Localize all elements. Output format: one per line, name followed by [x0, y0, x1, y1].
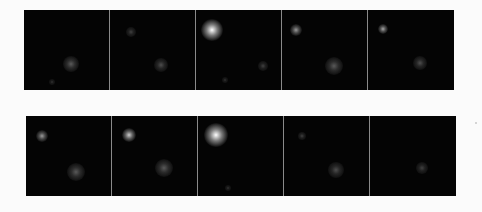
fluorescent-spot	[36, 130, 48, 142]
image-panel	[24, 10, 110, 90]
fluorescent-spot	[298, 132, 306, 140]
fluorescent-spot	[67, 163, 85, 181]
fluorescent-spot	[155, 159, 173, 177]
image-panel	[198, 116, 284, 196]
bottom-row	[26, 116, 456, 196]
fluorescent-spot	[201, 19, 223, 41]
fluorescent-spot	[325, 57, 343, 75]
fluorescent-spot	[258, 61, 268, 71]
fluorescent-spot	[126, 27, 136, 37]
fluorescent-spot	[225, 185, 231, 191]
fluorescent-spot	[49, 79, 55, 85]
fluorescent-spot	[222, 77, 228, 83]
image-panel	[196, 10, 282, 90]
fluorescent-spot	[290, 24, 302, 36]
fluorescent-spot	[154, 58, 168, 72]
fluorescent-spot	[413, 56, 427, 70]
image-panel	[370, 116, 456, 196]
image-panel	[284, 116, 370, 196]
artifact-dot	[475, 122, 477, 124]
fluorescent-spot	[122, 128, 136, 142]
image-panel	[110, 10, 196, 90]
image-panel	[282, 10, 368, 90]
image-panel	[26, 116, 112, 196]
fluorescent-spot	[416, 162, 428, 174]
top-row	[24, 10, 454, 90]
fluorescent-spot	[204, 123, 228, 147]
image-panel	[368, 10, 454, 90]
fluorescent-spot	[328, 162, 344, 178]
fluorescent-spot	[63, 56, 79, 72]
fluorescent-spot	[378, 24, 388, 34]
image-panel	[112, 116, 198, 196]
